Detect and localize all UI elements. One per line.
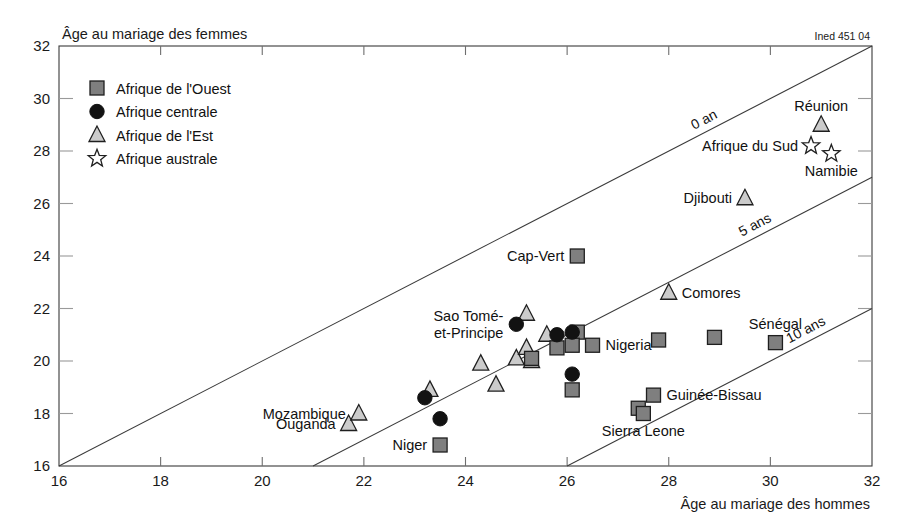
x-tick-label: 18 xyxy=(152,472,169,489)
data-point[interactable] xyxy=(351,405,367,420)
y-tick-label: 30 xyxy=(33,90,50,107)
point-labels: OugandaMozambiqueComoresDjiboutiRéunionN… xyxy=(263,98,858,453)
data-point[interactable] xyxy=(652,333,666,347)
x-tick-label: 20 xyxy=(254,472,271,489)
data-point-label: Djibouti xyxy=(684,190,732,206)
y-tick-label: 32 xyxy=(33,37,50,54)
data-point[interactable] xyxy=(565,367,579,381)
data-point-label: Sénégal xyxy=(749,316,802,332)
data-point[interactable] xyxy=(525,351,539,365)
data-point-label: Sierra Leone xyxy=(602,423,685,439)
data-point[interactable] xyxy=(768,336,782,350)
data-point-label: Namibie xyxy=(805,163,858,179)
y-tick-label: 26 xyxy=(33,195,50,212)
y-tick-label: 24 xyxy=(33,247,50,264)
data-point-label: Niger xyxy=(392,437,427,453)
series-1 xyxy=(341,116,830,431)
x-tick-label: 28 xyxy=(660,472,677,489)
y-tick-label: 20 xyxy=(33,352,50,369)
data-point-label: Mozambique xyxy=(263,406,346,422)
x-tick-label: 22 xyxy=(356,472,373,489)
legend-label: Afrique centrale xyxy=(116,104,218,120)
data-point[interactable] xyxy=(737,189,753,204)
data-point[interactable] xyxy=(550,341,564,355)
data-point-label: Comores xyxy=(682,285,741,301)
x-tick-label: 26 xyxy=(559,472,576,489)
y-axis-title: Âge au mariage des femmes xyxy=(62,26,247,42)
credit-text: Ined 451 04 xyxy=(815,30,871,42)
data-point[interactable] xyxy=(661,284,677,299)
data-point[interactable] xyxy=(802,137,819,154)
chart-root: 161820222426283032161820222426283032Âge … xyxy=(0,0,908,529)
data-point[interactable] xyxy=(473,355,489,370)
data-point-label: Réunion xyxy=(794,98,848,114)
data-point[interactable] xyxy=(509,317,523,331)
data-point[interactable] xyxy=(550,328,564,342)
data-point-label: Cap-Vert xyxy=(507,248,564,264)
reference-line-label-0: 0 an xyxy=(688,106,720,133)
data-point[interactable] xyxy=(823,144,841,161)
scatter-plot: 161820222426283032161820222426283032Âge … xyxy=(0,0,908,529)
data-point[interactable] xyxy=(565,325,579,339)
legend-marker-square xyxy=(90,81,104,95)
legend-marker-circle xyxy=(90,104,104,118)
svg-text:5 ans: 5 ans xyxy=(736,209,774,239)
x-tick-label: 24 xyxy=(457,472,474,489)
x-tick-label: 30 xyxy=(762,472,779,489)
data-point[interactable] xyxy=(647,388,661,402)
legend-label: Afrique de l'Est xyxy=(116,128,213,144)
legend-label: Afrique australe xyxy=(116,151,218,167)
y-tick-label: 28 xyxy=(33,142,50,159)
legend-marker-star xyxy=(88,149,106,166)
series-4 xyxy=(802,137,840,162)
data-point[interactable] xyxy=(433,438,447,452)
data-point-label: Nigeria xyxy=(606,337,653,353)
data-point-label: Afrique du Sud xyxy=(702,138,798,154)
svg-text:0 an: 0 an xyxy=(688,106,720,133)
data-point-label: Guinée-Bissau xyxy=(667,387,762,403)
y-tick-label: 18 xyxy=(33,405,50,422)
reference-line-label-5: 5 ans xyxy=(736,209,774,239)
data-point[interactable] xyxy=(518,305,534,320)
legend: Afrique de l'OuestAfrique centraleAfriqu… xyxy=(88,81,231,168)
y-tick-label: 22 xyxy=(33,300,50,317)
data-point-label: Sao Tomé-et-Principe xyxy=(433,308,503,341)
data-point[interactable] xyxy=(813,116,829,131)
data-point[interactable] xyxy=(570,249,584,263)
data-point[interactable] xyxy=(565,338,579,352)
legend-marker-triangle xyxy=(89,126,105,141)
y-tick-label: 16 xyxy=(33,457,50,474)
x-tick-label: 32 xyxy=(864,472,881,489)
legend-label: Afrique de l'Ouest xyxy=(116,81,231,97)
data-point[interactable] xyxy=(418,391,432,405)
data-point[interactable] xyxy=(707,330,721,344)
data-point[interactable] xyxy=(488,376,504,391)
data-point[interactable] xyxy=(586,338,600,352)
data-point[interactable] xyxy=(433,412,447,426)
data-point[interactable] xyxy=(636,407,650,421)
x-axis-title: Âge au mariage des hommes xyxy=(681,496,870,512)
x-tick-label: 16 xyxy=(51,472,68,489)
data-point[interactable] xyxy=(565,383,579,397)
